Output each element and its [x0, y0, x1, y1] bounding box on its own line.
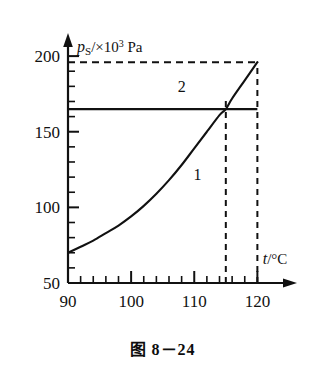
- series-label-2: 2: [178, 78, 186, 95]
- x-tick-label: 110: [182, 292, 207, 311]
- reference-lines: [68, 62, 257, 283]
- x-axis-ticks: [68, 271, 257, 283]
- y-axis-label: pS/×103 Pa: [76, 38, 143, 57]
- y-axis-symbol: p: [76, 38, 85, 56]
- series-label-1: 1: [193, 166, 201, 183]
- x-axis-tick-labels: 90100110120: [60, 292, 271, 311]
- x-tick-label: 90: [60, 292, 77, 311]
- y-axis-unit-text: Pa: [128, 39, 143, 55]
- y-tick-label: 100: [35, 198, 61, 217]
- x-axis-arrowhead: [283, 278, 297, 287]
- y-tick-label: 200: [35, 47, 61, 66]
- y-tick-label: 150: [35, 123, 61, 142]
- x-axis-label: t/°C: [263, 250, 288, 267]
- x-tick-label: 100: [118, 292, 144, 311]
- x-tick-label: 120: [245, 292, 271, 311]
- y-axis-separator: /×10: [91, 39, 119, 55]
- chart-plot: pS/×103 Pa t/°C 50100150200 90100110120 …: [0, 0, 325, 365]
- figure-caption: 图 8－24: [0, 336, 325, 360]
- y-axis-arrowhead: [63, 33, 73, 47]
- series-curve-1: [68, 62, 257, 253]
- y-axis-tick-labels: 50100150200: [35, 47, 61, 293]
- y-tick-label: 50: [43, 274, 60, 293]
- figure-container: pS/×103 Pa t/°C 50100150200 90100110120 …: [0, 0, 325, 365]
